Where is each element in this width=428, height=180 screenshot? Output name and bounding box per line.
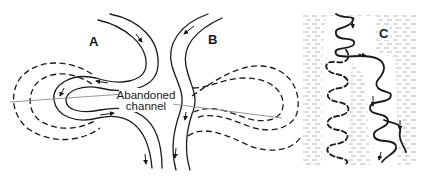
panel-a-label: A [89,34,99,49]
panel-a-flow-arrow-4 [100,113,114,115]
panel-b-abandoned-inner-bank [193,78,283,121]
panel-b: B [171,14,300,170]
panel-c: C [303,14,416,165]
panel-a-flow-arrow-3 [60,88,64,96]
diagram-canvas: A B Abandoned channel [0,0,428,180]
panel-b-flow-arrow-2 [185,112,186,120]
panel-c-label: C [379,26,389,41]
callout-leader-right [172,104,282,118]
callout-channel: channel [126,100,166,112]
panel-b-abandoned-lower-bank [188,131,300,150]
panel-b-flow-arrow-3 [175,148,176,158]
meander-diagram: A B Abandoned channel [0,0,428,180]
panel-b-channel-left-bank [171,14,208,170]
panel-a-flow-arrow-5 [145,154,146,164]
panel-b-label: B [208,32,217,47]
